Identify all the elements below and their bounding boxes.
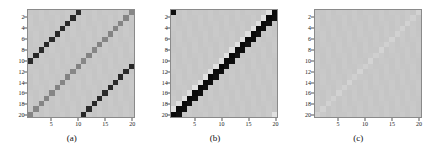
y-tick-mark <box>24 82 27 83</box>
panel-a: 24681012141618205101520 (a) <box>0 0 143 157</box>
plot-area-b: 24681012141618205101520 <box>170 9 278 118</box>
x-tick-mark <box>78 118 79 121</box>
y-tick-mark <box>311 93 314 94</box>
plot-area-c: 24681012141618205101520 <box>314 9 422 118</box>
x-tick-label: 20 <box>273 121 279 127</box>
panel-caption-c: (c) <box>287 133 430 143</box>
y-tick-mark <box>311 82 314 83</box>
panel-c: 24681012141618205101520 (c) <box>287 0 430 157</box>
y-tick-mark <box>167 17 170 18</box>
heatmap-image-b <box>170 9 278 118</box>
x-tick-mark <box>221 118 222 121</box>
x-tick-mark <box>418 118 419 121</box>
y-tick-mark <box>24 104 27 105</box>
x-tick-label: 20 <box>416 121 422 127</box>
y-tick-mark <box>311 71 314 72</box>
y-tick-mark <box>24 28 27 29</box>
y-tick-mark <box>311 49 314 50</box>
y-tick-mark <box>167 60 170 61</box>
panel-b: 24681012141618205101520 (b) <box>143 0 286 157</box>
y-tick-mark <box>167 93 170 94</box>
x-tick-label: 10 <box>219 121 225 127</box>
y-tick-mark <box>24 60 27 61</box>
y-tick-mark <box>167 38 170 39</box>
plot-area-a: 24681012141618205101520 <box>27 9 135 118</box>
y-tick-mark <box>311 104 314 105</box>
y-tick-mark <box>167 71 170 72</box>
y-tick-mark <box>311 60 314 61</box>
y-tick-mark <box>24 115 27 116</box>
y-tick-mark <box>311 17 314 18</box>
y-tick-mark <box>167 28 170 29</box>
x-tick-mark <box>337 118 338 121</box>
y-tick-mark <box>167 104 170 105</box>
x-tick-label: 15 <box>389 121 395 127</box>
x-tick-mark <box>248 118 249 121</box>
x-tick-mark <box>51 118 52 121</box>
panel-caption-a: (a) <box>0 133 143 143</box>
x-tick-mark <box>105 118 106 121</box>
x-tick-label: 5 <box>336 121 339 127</box>
figure-three-panel-heatmaps: 24681012141618205101520 (a) 246810121416… <box>0 0 430 157</box>
y-tick-mark <box>24 38 27 39</box>
x-tick-label: 15 <box>246 121 252 127</box>
y-tick-mark <box>24 49 27 50</box>
x-tick-mark <box>132 118 133 121</box>
y-tick-mark <box>311 38 314 39</box>
panel-caption-b: (b) <box>143 133 286 143</box>
y-tick-mark <box>311 115 314 116</box>
x-tick-label: 20 <box>129 121 135 127</box>
heatmap-image-a <box>27 9 135 118</box>
x-tick-mark <box>194 118 195 121</box>
x-tick-mark <box>391 118 392 121</box>
y-tick-mark <box>311 28 314 29</box>
x-tick-label: 5 <box>193 121 196 127</box>
y-tick-mark <box>167 115 170 116</box>
y-tick-mark <box>24 93 27 94</box>
x-tick-label: 15 <box>102 121 108 127</box>
y-tick-mark <box>24 71 27 72</box>
x-tick-mark <box>364 118 365 121</box>
y-tick-mark <box>167 49 170 50</box>
x-tick-label: 5 <box>50 121 53 127</box>
y-tick-mark <box>167 82 170 83</box>
heatmap-image-c <box>314 9 422 118</box>
x-tick-mark <box>275 118 276 121</box>
x-tick-label: 10 <box>362 121 368 127</box>
y-tick-mark <box>24 17 27 18</box>
x-tick-label: 10 <box>75 121 81 127</box>
